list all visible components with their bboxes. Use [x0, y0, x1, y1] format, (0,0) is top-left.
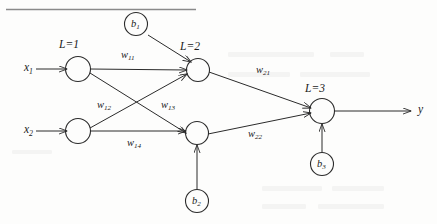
- bias-label-b1: b1: [131, 19, 140, 30]
- network-graph: [0, 0, 437, 224]
- layer-label-L3: L=3: [305, 83, 325, 95]
- neuron-L3: [310, 99, 335, 124]
- edge-w11: [90, 69, 187, 70]
- input-label-x1: x1: [24, 62, 33, 74]
- weight-label-w13: w13: [161, 100, 175, 111]
- output-label-y: y: [418, 104, 423, 116]
- layer-label-L2: L=2: [180, 41, 200, 53]
- weight-label-w21: w21: [256, 65, 270, 76]
- weight-label-w22: w22: [248, 129, 262, 140]
- input-label-x2: x2: [24, 124, 33, 136]
- neuron-L2-top: [187, 59, 210, 82]
- bias-label-b2: b2: [192, 196, 201, 207]
- neuron-L1-bottom: [66, 119, 91, 144]
- edge-w21: [209, 72, 311, 108]
- layer-label-L1: L=1: [59, 39, 79, 51]
- neuron-L2-bottom: [186, 122, 209, 145]
- figure-canvas: x1 x2 y L=1 L=2 L=3 b1 b2 b3 w11 w12 w13…: [0, 0, 437, 224]
- weight-label-w11: w11: [121, 50, 134, 61]
- weight-label-w12: w12: [97, 100, 111, 111]
- weight-label-w14: w14: [127, 138, 141, 149]
- bias-label-b3: b3: [317, 159, 326, 170]
- neuron-L1-top: [66, 57, 91, 82]
